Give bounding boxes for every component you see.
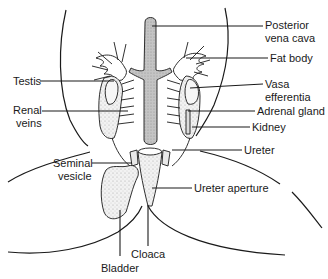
label-line: Seminal [53, 157, 93, 169]
seminal-vesicle-right [162, 150, 170, 166]
urogenital-diagram: Posterior vena cava Fat body Testis Vasa… [0, 0, 328, 279]
label-line: vesicle [58, 170, 92, 182]
body-outline-left [60, 10, 88, 146]
labels: Posterior vena cava Fat body Testis Vasa… [13, 19, 325, 274]
right-renal-veins [167, 80, 180, 124]
label-ureter-aperture: Ureter aperture [194, 182, 269, 194]
label-testis: Testis [13, 75, 42, 87]
label-fat-body: Fat body [270, 52, 313, 64]
cloaca [138, 152, 162, 206]
leg-outline-right-mid [292, 192, 322, 228]
seminal-vesicle-left [130, 150, 138, 166]
label-cloaca: Cloaca [131, 248, 166, 260]
label-bladder: Bladder [101, 262, 139, 274]
label-line: Renal [13, 104, 42, 116]
label-renal-veins: Renal veins [13, 104, 45, 129]
label-adrenal-gland: Adrenal gland [257, 105, 325, 117]
label-ureter: Ureter [244, 144, 275, 156]
label-line: veins [16, 117, 42, 129]
right-adrenal-gland [186, 110, 190, 134]
label-kidney: Kidney [252, 121, 286, 133]
label-line: Posterior [265, 19, 309, 31]
diagram-canvas: Posterior vena cava Fat body Testis Vasa… [0, 0, 328, 279]
label-vasa-efferentia: Vasa efferentia [265, 78, 312, 103]
right-ureter-duct [172, 138, 190, 166]
left-kidney-complex [92, 42, 134, 166]
label-seminal-vesicle: Seminal vesicle [53, 157, 96, 182]
label-posterior-vena-cava: Posterior vena cava [265, 19, 316, 44]
label-line: efferentia [265, 91, 312, 103]
leg-outline-right-lower [148, 206, 285, 255]
label-line: vena cava [265, 32, 316, 44]
label-line: Vasa [265, 78, 290, 90]
right-kidney-complex [167, 42, 210, 166]
left-ureter-duct [112, 138, 130, 166]
leader-vasa-efferentia [190, 84, 263, 88]
posterior-vena-cava [129, 18, 172, 145]
